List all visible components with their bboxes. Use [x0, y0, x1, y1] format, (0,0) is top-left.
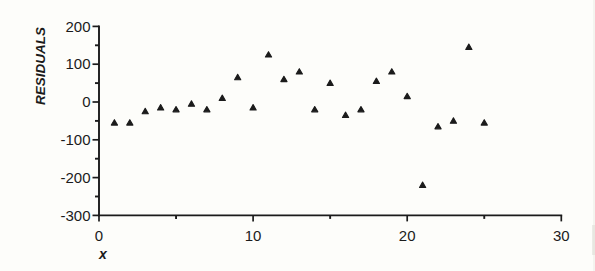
y-tick-label: -300	[60, 207, 90, 224]
y-tick-label: 0	[82, 93, 90, 110]
y-axis-label: RESIDUALS	[33, 27, 48, 105]
axis-lines	[98, 26, 562, 217]
x-tick-label: 30	[553, 227, 570, 244]
data-point-marker	[111, 120, 117, 125]
data-point-marker	[142, 108, 148, 113]
data-point-markers	[111, 44, 487, 187]
data-point-marker	[127, 120, 133, 125]
data-point-marker	[435, 123, 441, 128]
data-point-marker	[389, 69, 395, 74]
data-point-marker	[327, 80, 333, 85]
data-point-marker	[404, 93, 410, 98]
data-point-marker	[466, 44, 472, 49]
data-point-marker	[373, 78, 379, 83]
x-tick-label: 20	[399, 227, 416, 244]
data-point-marker	[450, 118, 456, 123]
data-point-marker	[173, 106, 179, 111]
y-tick-label: -100	[60, 131, 90, 148]
data-point-marker	[219, 95, 225, 100]
x-axis-label: x	[98, 246, 108, 262]
data-point-marker	[188, 101, 194, 106]
data-point-marker	[204, 106, 210, 111]
data-point-marker	[235, 74, 241, 79]
data-point-marker	[158, 105, 164, 110]
data-point-marker	[250, 105, 256, 110]
data-point-marker	[358, 106, 364, 111]
data-point-marker	[281, 76, 287, 81]
axis-ticks	[93, 26, 562, 221]
y-tick-label: 100	[65, 55, 90, 72]
scanned-figure-page: 2001000-100-200-3000102030 RESIDUALS x	[0, 0, 595, 271]
data-point-marker	[265, 52, 271, 57]
residuals-scatter-plot: 2001000-100-200-3000102030 RESIDUALS x	[0, 0, 595, 271]
data-point-marker	[296, 69, 302, 74]
data-point-marker	[312, 106, 318, 111]
x-tick-label: 0	[95, 227, 103, 244]
tick-labels: 2001000-100-200-3000102030	[60, 18, 569, 245]
y-tick-label: 200	[65, 18, 90, 35]
y-tick-label: -200	[60, 169, 90, 186]
data-point-marker	[481, 120, 487, 125]
data-point-marker	[342, 112, 348, 117]
x-tick-label: 10	[245, 227, 262, 244]
data-point-marker	[420, 182, 426, 187]
